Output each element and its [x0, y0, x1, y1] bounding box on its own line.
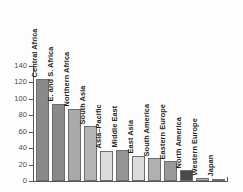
y-axis-tick-label: 100 [0, 95, 27, 103]
bar-category-label-text: E. and S. Africa [47, 47, 54, 102]
y-axis-tick-label-text: 140 [14, 62, 27, 70]
bar-category-label: South Asia [83, 105, 90, 144]
bar-category-label: Western Europe [195, 147, 202, 192]
y-axis-tick-label-text: 20 [18, 161, 27, 169]
bar-category-label: Eastern Europe [163, 132, 170, 187]
bar-category-label: E. and S. Africa [51, 74, 58, 129]
bar-chart: 140120100806040200 Central AfricaE. and … [0, 0, 243, 192]
y-axis-tick-label-text: 60 [18, 128, 27, 136]
bar-series: Central AfricaE. and S. AfricaNorthern A… [34, 66, 226, 181]
bar-category-label-text: Asia–Pacific [95, 104, 102, 148]
y-axis-tick [29, 115, 33, 116]
y-axis-tick-label-text: 80 [18, 111, 27, 119]
y-axis-tick-label-text: 0 [23, 177, 27, 185]
y-axis-tick-label: 20 [0, 161, 27, 169]
bar-category-label: Northern Africa [67, 79, 74, 134]
bar-category-label-text: East Asia [127, 120, 134, 153]
y-axis-tick [29, 165, 33, 166]
bar-category-label: Central Africa [35, 53, 42, 102]
y-axis-tick-label-text: 120 [14, 78, 27, 86]
y-axis-tick-label-text: 100 [14, 95, 27, 103]
y-axis-tick-label: 40 [0, 144, 27, 152]
y-axis-tick [29, 132, 33, 133]
bar-category-label-text: North America [175, 117, 182, 168]
y-axis-tick [29, 148, 33, 149]
bar-category-label-text: Eastern Europe [159, 104, 166, 159]
x-axis-endcap [227, 177, 228, 182]
bar-slot: Japan [210, 66, 226, 181]
bar-category-label-text: South America [143, 103, 150, 156]
y-axis-tick-label: 120 [0, 78, 27, 86]
bar-category-label-text: Northern Africa [63, 52, 70, 107]
y-axis-tick-label: 140 [0, 62, 27, 70]
bar-category-label: East Asia [131, 137, 138, 170]
bar-category-label: Middle East [115, 127, 122, 169]
y-axis-tick-label: 60 [0, 128, 27, 136]
bar-category-label-text: South Asia [79, 85, 86, 124]
y-axis-tick [29, 181, 33, 182]
bar-category-label: North America [179, 143, 186, 192]
bar-category-label-text: Western Europe [191, 118, 198, 175]
y-axis-tick-label: 0 [0, 177, 27, 185]
y-axis-tick [29, 99, 33, 100]
bar-category-label: South America [147, 130, 154, 183]
y-axis-tick [29, 82, 33, 83]
bar-category-label-text: Japan [207, 155, 214, 177]
y-axis-tick-label-text: 40 [18, 144, 27, 152]
bar-category-label-text: Central Africa [31, 28, 38, 77]
bar-category-label: Asia–Pacific [99, 127, 106, 171]
bar-category-label-text: Middle East [111, 106, 118, 148]
y-axis-tick-label: 80 [0, 111, 27, 119]
bar-category-label: Japan [211, 166, 218, 188]
